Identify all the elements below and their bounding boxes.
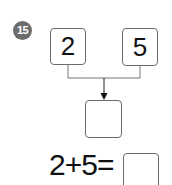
arrow-down-icon [101,93,108,100]
answer-input-box[interactable] [123,153,159,185]
equation-text: 2+5= [49,148,113,182]
result-input-box[interactable] [85,100,122,138]
